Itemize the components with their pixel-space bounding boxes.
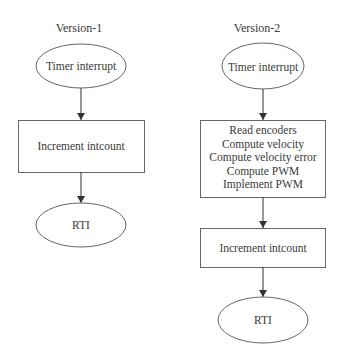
v2-compute-block-label: Read encoders Compute velocity Compute v…: [200, 124, 326, 192]
v1-increment-label: Increment intcount: [18, 139, 144, 153]
v1-title: Version-1: [41, 21, 117, 35]
v1-rti-label: RTI: [36, 218, 126, 232]
v2-title: Version-2: [219, 21, 295, 35]
v2-line-read-encoders: Read encoders: [200, 124, 326, 138]
v2-line-compute-velocity: Compute velocity: [200, 138, 326, 152]
v2-line-compute-velocity-error: Compute velocity error: [200, 151, 326, 165]
v2-line-compute-pwm: Compute PWM: [200, 165, 326, 179]
v2-rti-label: RTI: [218, 313, 308, 327]
v2-increment-label: Increment intcount: [200, 241, 326, 255]
v2-line-implement-pwm: Implement PWM: [200, 178, 326, 192]
v2-timer-interrupt-label: Timer interrupt: [218, 60, 308, 74]
v1-timer-interrupt-label: Timer interrupt: [36, 59, 126, 73]
